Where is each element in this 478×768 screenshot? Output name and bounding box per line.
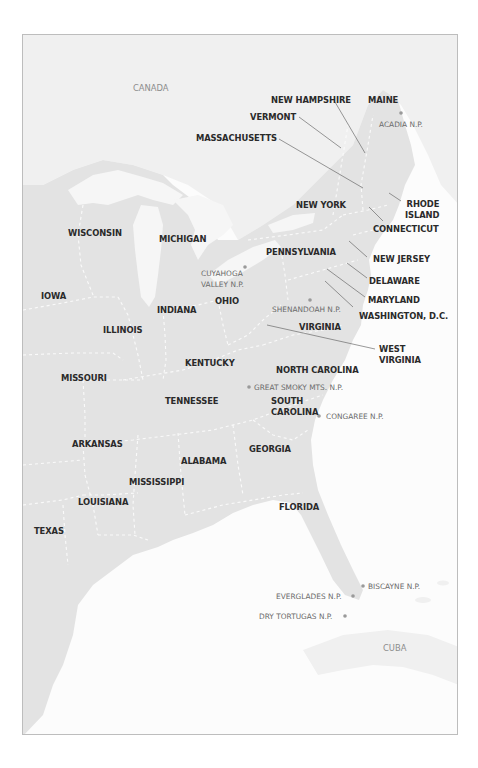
- label-great-smoky-mts: GREAT SMOKY MTS. N.P.: [254, 382, 343, 393]
- label-west-virginia-line2: VIRGINIA: [379, 355, 421, 366]
- label-delaware: DELAWARE: [369, 276, 420, 287]
- label-alabama: ALABAMA: [181, 456, 226, 467]
- label-everglades: EVERGLADES N.P.: [276, 591, 342, 602]
- label-acadia: ACADIA N.P.: [379, 119, 423, 130]
- label-wisconsin: WISCONSIN: [68, 228, 122, 239]
- label-south-carolina-line1: SOUTH: [271, 396, 318, 407]
- park-dot-great-smoky[interactable]: [247, 385, 251, 389]
- label-biscayne: BISCAYNE N.P.: [368, 581, 420, 592]
- label-louisiana: LOUISIANA: [78, 497, 128, 508]
- park-dot-shenandoah[interactable]: [308, 298, 312, 302]
- label-south-carolina: SOUTH CAROLINA: [271, 396, 318, 418]
- label-kentucky: KENTUCKY: [185, 358, 235, 369]
- park-dot-dry-tortugas[interactable]: [343, 614, 347, 618]
- label-new-york: NEW YORK: [296, 200, 346, 211]
- label-pennsylvania: PENNSYLVANIA: [266, 247, 336, 258]
- park-dot-acadia[interactable]: [399, 111, 403, 115]
- bahamas-island: [415, 597, 431, 603]
- label-cuba: CUBA: [383, 643, 406, 654]
- label-south-carolina-line2: CAROLINA: [271, 407, 318, 418]
- label-rhode-island-line1: RHODE: [405, 199, 439, 210]
- park-dot-everglades[interactable]: [351, 594, 355, 598]
- label-west-virginia-line1: WEST: [379, 344, 421, 355]
- label-tennessee: TENNESSEE: [165, 396, 218, 407]
- label-maine: MAINE: [368, 95, 398, 106]
- label-mississippi: MISSISSIPPI: [129, 477, 184, 488]
- label-vermont: VERMONT: [250, 112, 296, 123]
- map-frame: CANADA CUBA MAINE NEW HAMPSHIRE VERMONT …: [22, 34, 458, 735]
- label-west-virginia: WEST VIRGINIA: [379, 344, 421, 366]
- label-cuyahoga-line2: VALLEY N.P.: [201, 279, 244, 290]
- label-georgia: GEORGIA: [249, 444, 291, 455]
- label-rhode-island: RHODE ISLAND: [405, 199, 439, 221]
- park-dot-biscayne[interactable]: [361, 584, 365, 588]
- label-shenandoah: SHENANDOAH N.P.: [272, 304, 341, 315]
- label-maryland: MARYLAND: [368, 295, 420, 306]
- label-cuyahoga-line1: CUYAHOGA: [201, 268, 244, 279]
- label-massachusetts: MASSACHUSETTS: [196, 133, 277, 144]
- label-virginia: VIRGINIA: [299, 322, 341, 333]
- label-missouri: MISSOURI: [61, 373, 107, 384]
- label-iowa: IOWA: [41, 291, 66, 302]
- bahamas-island: [437, 581, 449, 586]
- label-texas: TEXAS: [34, 526, 64, 537]
- label-connecticut: CONNECTICUT: [373, 224, 439, 235]
- label-indiana: INDIANA: [157, 305, 196, 316]
- label-michigan: MICHIGAN: [159, 234, 206, 245]
- label-illinois: ILLINOIS: [103, 325, 142, 336]
- label-florida: FLORIDA: [279, 502, 319, 513]
- label-new-hampshire: NEW HAMPSHIRE: [271, 95, 351, 106]
- label-ohio: OHIO: [215, 296, 239, 307]
- label-new-jersey: NEW JERSEY: [373, 254, 430, 265]
- label-canada: CANADA: [133, 83, 169, 94]
- label-rhode-island-line2: ISLAND: [405, 210, 439, 221]
- cuba-landmass: [303, 630, 458, 685]
- label-congaree: CONGAREE N.P.: [326, 411, 384, 422]
- label-north-carolina: NORTH CAROLINA: [276, 365, 359, 376]
- label-arkansas: ARKANSAS: [72, 439, 123, 450]
- label-dry-tortugas: DRY TORTUGAS N.P.: [259, 611, 332, 622]
- label-cuyahoga-valley: CUYAHOGA VALLEY N.P.: [201, 268, 244, 290]
- label-washington-dc: WASHINGTON, D.C.: [359, 311, 448, 322]
